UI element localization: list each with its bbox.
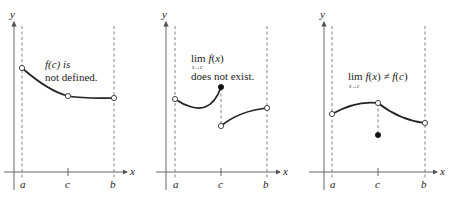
- x-axis-label: x: [282, 165, 288, 177]
- caption-line-2: not defined.: [45, 71, 98, 83]
- panel-3: y x lim f(x) ≠ f(c) x→c a c b: [309, 8, 445, 190]
- tick-label-c: c: [375, 178, 380, 190]
- tick-label-a: a: [20, 178, 26, 190]
- panel-1: y x f(c) is not defined. a c b: [4, 8, 135, 190]
- x-axis-label: x: [129, 165, 135, 177]
- tick-label-a: a: [330, 178, 336, 190]
- caption-lim-subscript: x→c: [348, 83, 360, 89]
- right-branch-curve: [221, 108, 267, 126]
- open-point-c: [65, 93, 70, 98]
- discontinuity-figure: y x f(c) is not defined. a c b y x lim f…: [0, 0, 452, 201]
- y-axis-label: y: [319, 8, 325, 20]
- tick-label-b: b: [110, 178, 116, 190]
- tick-label-a: a: [173, 178, 179, 190]
- open-point-a: [329, 111, 334, 116]
- open-point-a: [19, 65, 24, 70]
- open-point-b: [111, 95, 116, 100]
- caption-line-2: does not exist.: [191, 70, 254, 82]
- tick-label-b: b: [421, 178, 427, 190]
- filled-point-fc: [375, 132, 380, 137]
- open-point-a: [172, 96, 177, 101]
- tick-label-c: c: [65, 178, 70, 190]
- filled-point-c: [218, 84, 223, 89]
- panel-2: y x lim f(x) x→c does not exist. a c b: [156, 8, 288, 190]
- right-branch-curve: [378, 103, 425, 123]
- open-point-c: [218, 123, 223, 128]
- tick-label-c: c: [218, 178, 223, 190]
- caption-line-1: f(c) is: [45, 58, 70, 71]
- open-point-b: [422, 120, 427, 125]
- open-point-b: [264, 105, 269, 110]
- caption-lim: lim f(x) ≠ f(c): [348, 70, 408, 83]
- x-axis-label: x: [439, 165, 445, 177]
- y-axis-label: y: [9, 8, 15, 20]
- left-branch-curve: [175, 87, 221, 108]
- y-axis-label: y: [161, 8, 167, 20]
- left-branch-curve: [332, 103, 378, 114]
- open-point-c: [375, 100, 380, 105]
- tick-label-b: b: [263, 178, 269, 190]
